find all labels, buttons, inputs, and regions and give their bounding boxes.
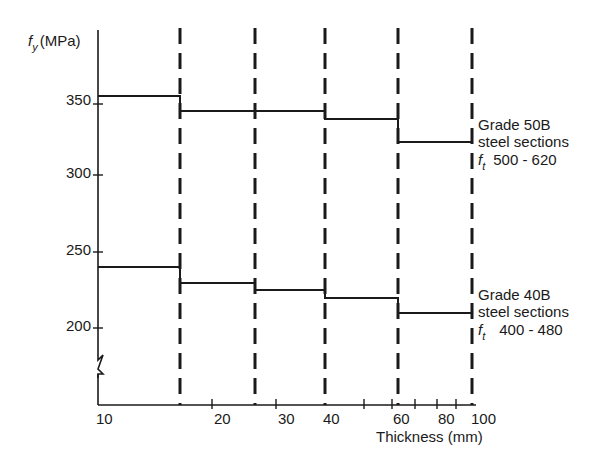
series-grade-50b-label: Grade 50B steel sections ft500 - 620 <box>478 116 569 172</box>
svg-text:Grade 50B: Grade 50B <box>478 116 551 133</box>
svg-text:100: 100 <box>471 410 496 427</box>
svg-text:60: 60 <box>393 410 410 427</box>
svg-text:80: 80 <box>438 410 455 427</box>
svg-text:40: 40 <box>323 410 340 427</box>
series-grade-40b-line <box>98 267 472 313</box>
series-grade-40b-label: Grade 40B steel sections ft400 - 480 <box>478 286 569 342</box>
svg-text:ft500 - 620: ft500 - 620 <box>478 151 557 172</box>
x-tick-labels: 10 20 30 40 60 80 100 <box>96 410 496 427</box>
svg-text:350: 350 <box>66 91 91 108</box>
svg-text:300: 300 <box>66 164 91 181</box>
thickness-boundaries <box>180 28 472 405</box>
svg-text:10: 10 <box>96 410 113 427</box>
x-axis-title: Thickness (mm) <box>376 428 483 445</box>
svg-text:250: 250 <box>66 241 91 258</box>
x-ticks <box>212 399 456 409</box>
svg-text:ft400 - 480: ft400 - 480 <box>478 321 563 342</box>
svg-text:30: 30 <box>278 410 295 427</box>
svg-text:steel sections: steel sections <box>478 303 569 320</box>
svg-text:20: 20 <box>214 410 231 427</box>
y-tick-labels: 350 300 250 200 <box>66 91 91 334</box>
y-axis-title: fy(MPa) <box>28 32 81 53</box>
series-grade-50b-line <box>98 96 472 142</box>
chart-canvas: fy(MPa) 350 300 250 200 10 20 30 40 60 8… <box>0 0 613 467</box>
svg-text:steel sections: steel sections <box>478 133 569 150</box>
svg-text:200: 200 <box>66 317 91 334</box>
svg-text:Grade 40B: Grade 40B <box>478 286 551 303</box>
